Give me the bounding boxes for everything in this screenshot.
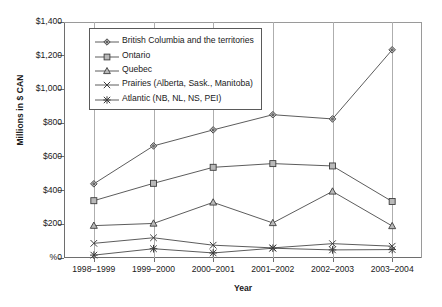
data-point-asterisk [329,246,337,254]
legend-item-4[interactable]: Atlantic (NB, NL, NS, PEI) [94,91,254,105]
data-point-square [104,54,110,60]
data-point-asterisk [209,249,217,257]
data-point-asterisk [90,251,98,259]
data-point-triangle [210,199,217,205]
line-chart: Millions in $ CAN %0$200$400$600$800$1,0… [0,0,442,307]
data-point-asterisk [388,246,396,254]
data-point-diamond [150,143,157,150]
legend-label: Prairies (Alberta, Sask., Manitoba) [120,78,253,88]
series-line [94,164,392,202]
data-point-diamond [270,111,277,118]
series-line [94,238,392,248]
legend-marker-triangle-icon [94,63,120,75]
legend-item-3[interactable]: Prairies (Alberta, Sask., Manitoba) [94,76,254,90]
legend-label: Atlantic (NB, NL, NS, PEI) [120,93,221,103]
data-point-triangle [329,188,336,194]
data-point-diamond [104,39,110,45]
legend: British Columbia and the territoriesOnta… [89,28,262,110]
data-point-diamond [210,127,217,134]
legend-item-1[interactable]: Ontario [94,47,254,61]
series-line [94,248,392,255]
legend-label: Ontario [120,50,150,60]
legend-marker-square-icon [94,49,120,61]
data-point-square [91,198,97,204]
series-line [94,191,392,226]
data-point-triangle [389,222,396,228]
legend-marker-cross-x-icon [94,77,120,89]
legend-item-2[interactable]: Quebec [94,62,254,76]
data-point-square [330,163,336,169]
legend-item-0[interactable]: British Columbia and the territories [94,33,254,47]
legend-marker-diamond-icon [94,34,120,46]
legend-marker-asterisk-icon [94,92,120,104]
series-1 [91,161,395,205]
data-point-square [270,161,276,167]
data-point-asterisk [103,96,110,103]
legend-label: British Columbia and the territories [120,35,254,45]
data-point-asterisk [269,244,277,252]
x-axis-title: Year [64,283,422,293]
data-point-square [210,164,216,170]
data-point-asterisk [150,245,158,253]
series-3 [91,234,396,251]
legend-label: Quebec [120,64,152,74]
data-point-square [389,199,395,205]
series-2 [90,188,395,229]
data-point-diamond [91,181,98,188]
data-point-square [151,180,157,186]
